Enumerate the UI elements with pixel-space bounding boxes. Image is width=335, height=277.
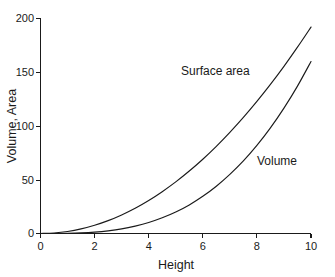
y-axis-title: Volume, Area bbox=[5, 89, 19, 163]
series-curve-surface-area bbox=[41, 27, 312, 233]
x-tick-label-0: 0 bbox=[37, 240, 43, 252]
x-tick-label-4: 4 bbox=[146, 240, 152, 252]
x-tick-label-2: 2 bbox=[92, 240, 98, 252]
series-label-surface-area: Surface area bbox=[181, 64, 250, 78]
x-axis-ticks bbox=[41, 234, 312, 239]
x-tick-label-6: 6 bbox=[200, 240, 206, 252]
chart-figure: 200 150 100 50 0 0 2 4 6 8 10 Height Vol… bbox=[0, 0, 335, 277]
x-axis-title: Height bbox=[158, 258, 195, 272]
series-curve-volume bbox=[41, 62, 312, 234]
y-tick-label-200: 200 bbox=[16, 12, 34, 24]
y-axis-ticks bbox=[36, 19, 41, 234]
x-tick-label-8: 8 bbox=[254, 240, 260, 252]
y-tick-label-150: 150 bbox=[16, 66, 34, 78]
y-tick-label-0: 0 bbox=[28, 227, 34, 239]
x-tick-label-10: 10 bbox=[305, 240, 317, 252]
series-label-volume: Volume bbox=[257, 154, 297, 168]
y-tick-label-50: 50 bbox=[22, 174, 34, 186]
chart-plot-area: 200 150 100 50 0 0 2 4 6 8 10 Height Vol… bbox=[0, 0, 335, 277]
